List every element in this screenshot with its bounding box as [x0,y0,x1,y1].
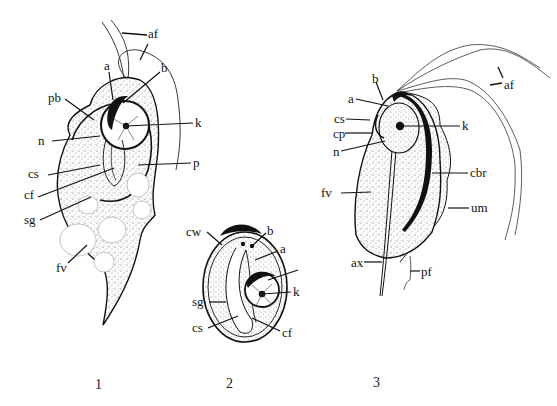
label-p3-cp: cp [333,127,345,140]
protist-figure: af a b pb k n p cs cf sg fv cw b a k sg … [0,0,557,406]
panel-number-3: 3 [373,376,380,390]
label-p3-b: b [372,72,379,85]
label-p2-sg: sg [192,295,204,308]
label-p3-k: k [462,119,469,132]
label-p3-cs: cs [334,112,345,125]
panel-number-2: 2 [226,377,233,391]
label-p2-k: k [293,285,300,298]
label-p1-a: a [104,59,110,72]
label-p3-fv: fv [321,186,332,199]
label-p2-a: a [280,242,286,255]
label-p2-cs: cs [192,321,203,334]
label-p1-sg: sg [24,213,36,226]
label-p1-k: k [195,116,202,129]
label-p1-cs: cs [28,167,39,180]
label-p2-cf: cf [282,326,292,339]
label-p3-pf: pf [421,265,432,278]
label-p3-cbr: cbr [470,166,487,179]
label-p3-n: n [333,145,340,158]
panel-number-1: 1 [95,378,102,392]
label-p1-b: b [161,61,168,74]
label-p1-pb: pb [48,91,61,104]
label-p1-fv: fv [56,261,67,274]
label-p1-n: n [38,134,45,147]
label-p3-um: um [471,201,488,214]
label-p2-cw: cw [186,225,201,238]
label-p2-b: b [267,224,274,237]
label-p1-af: af [148,27,158,40]
label-p1-p: p [193,156,200,169]
label-p3-ax: ax [351,256,363,269]
panel-1-drawing [38,20,193,325]
label-p3-af: af [504,78,514,91]
label-p3-a: a [348,92,354,105]
label-p1-cf: cf [24,188,34,201]
